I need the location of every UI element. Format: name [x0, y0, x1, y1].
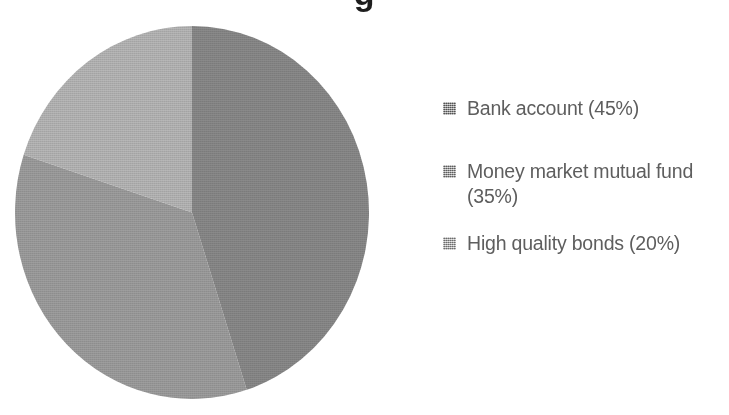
- pie-chart-svg: [15, 26, 369, 399]
- pie-chart: [15, 26, 369, 399]
- legend-item-high-quality-bonds[interactable]: High quality bonds (20%): [443, 231, 723, 256]
- chart-legend: Bank account (45%) Money market mutual f…: [443, 96, 723, 256]
- legend-swatch-icon-money-market-mutual-fund: [443, 165, 456, 178]
- legend-item-bank-account[interactable]: Bank account (45%): [443, 96, 723, 121]
- legend-item-money-market-mutual-fund[interactable]: Money market mutual fund (35%): [443, 159, 723, 209]
- legend-swatch-icon-high-quality-bonds: [443, 237, 456, 250]
- pie-chart-figure: g Bank account (45%) Money market mutual…: [0, 0, 729, 415]
- chart-title-cropped: g: [0, 0, 729, 14]
- legend-label-high-quality-bonds: High quality bonds (20%): [467, 231, 680, 256]
- legend-label-bank-account: Bank account (45%): [467, 96, 639, 121]
- legend-label-money-market-mutual-fund: Money market mutual fund (35%): [467, 159, 717, 209]
- pie-slices: [15, 26, 369, 399]
- legend-swatch-icon-bank-account: [443, 102, 456, 115]
